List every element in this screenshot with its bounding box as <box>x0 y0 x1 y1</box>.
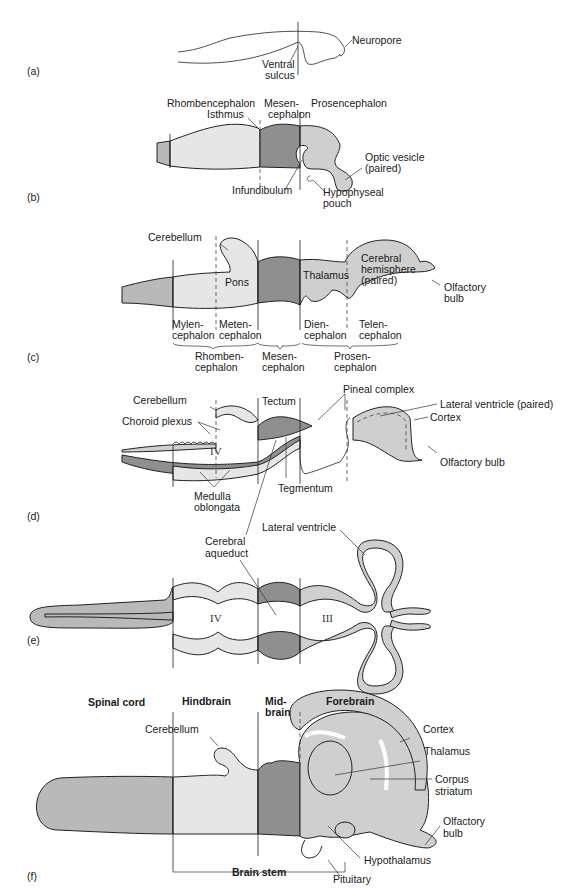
leader-line <box>345 40 352 47</box>
label-mylen-cephalon: cephalon <box>172 329 215 341</box>
label-optic-paired: (paired) <box>365 162 401 174</box>
spinal-region <box>122 277 173 307</box>
label-telen-cephalon: cephalon <box>359 329 402 341</box>
neural-tube-outline-bottom <box>178 42 340 64</box>
label-lateral-ventricle-paired: Lateral ventricle (paired) <box>440 398 553 410</box>
spinal-canal-tube <box>30 587 173 628</box>
prosencephalon-brace <box>302 343 398 349</box>
label-olfactory-bulb: Olfactory bulb <box>440 456 505 468</box>
rhombencephalon-region <box>170 124 260 169</box>
label-ventricle-iii: III <box>322 612 333 624</box>
mesencephalon-region <box>260 124 300 168</box>
label-prosen-cephalon: cephalon <box>334 361 377 373</box>
label-pons: Pons <box>225 276 249 288</box>
leader-line <box>198 422 210 434</box>
midbrain-upper-wall <box>258 582 300 606</box>
panel-tag-a: (a) <box>27 65 40 77</box>
spinal-cord-region <box>36 776 173 834</box>
label-meten-cephalon: cephalon <box>219 329 262 341</box>
label-cerebellum: Cerebellum <box>145 723 199 735</box>
panel-c: Cerebellum Pons Thalamus Cerebral hemisp… <box>27 231 487 373</box>
leader-line <box>210 407 216 410</box>
hindbrain-region <box>173 748 258 834</box>
label-bulb: bulb <box>444 292 464 304</box>
label-oblongata: oblongata <box>194 501 240 513</box>
label-spinal-cord: Spinal cord <box>88 696 145 708</box>
label-cortex: Cortex <box>423 723 455 735</box>
label-hindbrain: Hindbrain <box>182 695 231 707</box>
forebrain-lower-wall <box>300 622 403 694</box>
label-aqueduct: aqueduct <box>205 547 248 559</box>
mesencephalon-region <box>258 257 300 305</box>
panel-tag-c: (c) <box>27 351 39 363</box>
label-prosencephalon: Prosencephalon <box>311 97 387 109</box>
label-cerebellum: Cerebellum <box>133 394 187 406</box>
label-thalamus: Thalamus <box>303 269 349 281</box>
label-choroid-plexus: Choroid plexus <box>122 415 192 427</box>
label-thalamus: Thalamus <box>424 745 470 757</box>
label-forebrain: Forebrain <box>326 695 374 707</box>
label-paired: (paired) <box>361 274 397 286</box>
spinal-region <box>157 141 170 166</box>
thalamus-region <box>308 741 352 795</box>
label-ventricle-iv: IV <box>210 612 222 624</box>
neural-tube-outline-top <box>178 31 344 56</box>
brain-development-diagram: Neuropore Ventral sulcus (a) Rhombenceph… <box>0 0 577 896</box>
panel-tag-b: (b) <box>27 191 40 203</box>
cerebellum-roof <box>216 406 258 423</box>
label-hypothalamus: Hypothalamus <box>364 854 431 866</box>
label-brain-stem: Brain stem <box>232 866 286 878</box>
label-cerebral: Cerebral <box>205 535 245 547</box>
panel-f: Spinal cord Hindbrain Mid- brain Forebra… <box>27 690 486 885</box>
prosencephalon-region <box>300 126 352 191</box>
leader-line <box>432 280 440 285</box>
label-cerebellum: Cerebellum <box>148 231 202 243</box>
label-lateral-ventricle: Lateral ventricle <box>262 521 336 533</box>
leader-line <box>210 737 218 746</box>
panel-e: Lateral ventricle Cerebral aqueduct IV I… <box>27 521 430 694</box>
label-dien-cephalon: cephalon <box>304 329 347 341</box>
label-pituitary: Pituitary <box>333 873 372 885</box>
hindbrain-upper-wall <box>173 583 258 604</box>
cerebral-hemisphere <box>353 407 422 462</box>
midbrain-lower-wall <box>258 632 300 660</box>
label-mesen-cephalon: cephalon <box>262 361 305 373</box>
label-cortex: Cortex <box>430 411 462 423</box>
label-cephalon: cephalon <box>268 108 311 120</box>
label-isthmus: Isthmus <box>207 108 244 120</box>
hindbrain-lower-wall <box>173 632 258 655</box>
label-striatum: striatum <box>435 785 473 797</box>
label-olfactory: Olfactory <box>443 815 486 827</box>
rhombencephalon-region <box>173 238 258 308</box>
label-infundibulum: Infundibulum <box>232 184 292 196</box>
leader-line <box>318 394 345 420</box>
label-neuropore: Neuropore <box>352 34 402 46</box>
panel-d: Cerebellum Tectum Pineal complex Lateral… <box>27 383 553 535</box>
label-brain: brain <box>265 706 291 718</box>
leader-line <box>428 446 437 453</box>
label-tegmentum: Tegmentum <box>278 482 333 494</box>
label-corpus: Corpus <box>435 773 469 785</box>
pituitary-shape <box>302 840 322 858</box>
panel-a: Neuropore Ventral sulcus (a) <box>27 22 402 81</box>
panel-tag-e: (e) <box>27 634 40 646</box>
dorsal-wall <box>122 444 216 452</box>
mesencephalon-brace <box>258 343 300 349</box>
label-pineal-complex: Pineal complex <box>343 383 415 395</box>
label-sulcus: sulcus <box>265 69 295 81</box>
hypophyseal-pouch-shape <box>307 176 314 181</box>
forebrain-upper-wall <box>300 540 403 612</box>
panel-tag-d: (d) <box>27 510 40 522</box>
leader-line <box>414 417 428 420</box>
label-bulb: bulb <box>443 827 463 839</box>
leader-line <box>198 422 220 430</box>
label-ventricle-iv: IV <box>210 445 222 457</box>
label-pouch: pouch <box>323 197 352 209</box>
telencephalic-fold-upper <box>390 608 430 618</box>
panel-b: Rhombencephalon Mesen- cephalon Prosence… <box>27 97 425 209</box>
label-tectum: Tectum <box>262 395 296 407</box>
leader-line <box>340 530 365 555</box>
panel-tag-f: (f) <box>27 870 37 882</box>
rhombencephalon-brace <box>173 343 258 349</box>
label-rhomben-cephalon: cephalon <box>195 361 238 373</box>
